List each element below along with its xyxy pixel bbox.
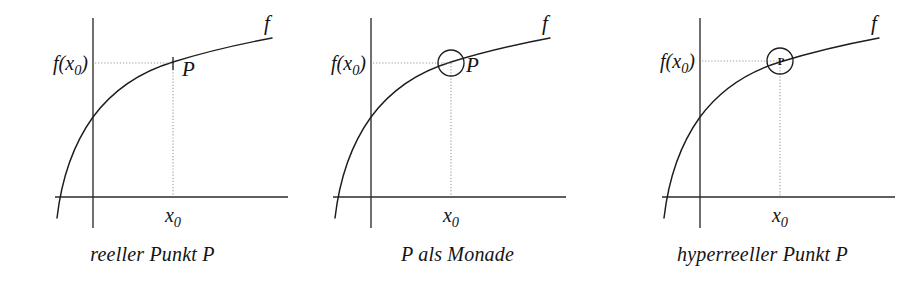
y-axis-value-label: f(x0)	[331, 52, 366, 78]
panel-caption: reeller Punkt P	[0, 243, 305, 266]
point-label: P	[465, 53, 479, 77]
panel-monad: f(x0) x0 P f P als Monade	[305, 0, 610, 288]
x-axis-value-label: x0	[164, 204, 182, 230]
function-curve	[57, 38, 272, 218]
panel-monad-plot: f(x0) x0 P f	[305, 0, 610, 240]
panel-caption: P als Monade	[305, 243, 610, 266]
y-axis-value-label: f(x0)	[660, 50, 695, 76]
panel-real-point-plot: f(x0) x0 P f	[0, 0, 305, 240]
function-curve	[664, 38, 879, 218]
hyperreal-point-figure: f(x0) x0 P f reeller Punkt P f(x0) x0 P …	[0, 0, 913, 288]
y-axis-value-label: f(x0)	[53, 52, 88, 78]
panel-real-point: f(x0) x0 P f reeller Punkt P	[0, 0, 305, 288]
curve-label: f	[871, 11, 880, 35]
panel-hyperreal-point-plot: f(x0) x0 P f	[610, 0, 913, 240]
x-axis-value-label: x0	[771, 204, 789, 230]
curve-label: f	[264, 11, 273, 35]
point-label: P	[778, 55, 785, 67]
x-axis-value-label: x0	[442, 204, 460, 230]
function-curve	[335, 38, 550, 218]
curve-label: f	[542, 11, 551, 35]
point-label: P	[181, 57, 195, 81]
panel-hyperreal-point: f(x0) x0 P f hyperreeller Punkt P	[610, 0, 913, 288]
panel-caption: hyperreeller Punkt P	[610, 243, 913, 266]
